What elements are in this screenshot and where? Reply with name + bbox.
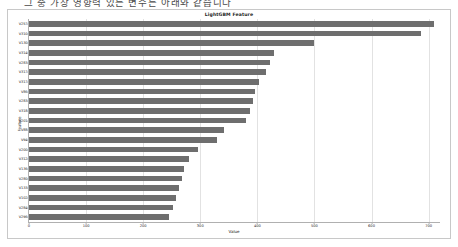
y-tick-mark	[27, 168, 29, 169]
page-caption-cutoff: 그 중 가장 영향력 있는 변수는 아래와 같습니다	[0, 0, 458, 7]
x-tick-label: 600	[368, 224, 375, 228]
y-tick-mark	[27, 91, 29, 92]
x-axis-label: Value	[28, 229, 440, 234]
x-tick-label: 200	[140, 224, 147, 228]
bar	[29, 89, 255, 94]
x-tick-label: 100	[83, 224, 90, 228]
bar	[29, 79, 259, 84]
bar	[29, 40, 314, 45]
y-tick-label: V317	[19, 80, 28, 84]
y-tick-mark	[27, 197, 29, 198]
bar	[29, 108, 250, 113]
bar	[29, 60, 270, 65]
x-tick-label: 300	[197, 224, 204, 228]
bar	[29, 156, 189, 161]
y-tick-mark	[27, 23, 29, 24]
bar	[29, 69, 266, 74]
y-tick-mark	[27, 149, 29, 150]
chart-figure: LightGBM Feature V257V310V130V314V283V31…	[8, 10, 450, 238]
bar	[29, 205, 173, 210]
y-tick-mark	[27, 81, 29, 82]
gridline	[314, 19, 315, 222]
y-tick-label: V130	[19, 41, 28, 45]
chart-card: LightGBM Feature V257V310V130V314V283V31…	[7, 9, 451, 239]
y-tick-mark	[27, 159, 29, 160]
bar	[29, 31, 421, 36]
y-tick-mark	[27, 217, 29, 218]
y-tick-label: V133	[19, 186, 28, 190]
bar	[29, 127, 224, 132]
y-tick-label: V312	[19, 157, 28, 161]
y-tick-label: V284	[19, 206, 28, 210]
plot-area: V257V310V130V314V283V317V317V86V283V318V…	[28, 19, 440, 223]
y-tick-mark	[27, 62, 29, 63]
y-tick-mark	[27, 120, 29, 121]
screenshot-root: 그 중 가장 영향력 있는 변수는 아래와 같습니다 LightGBM Feat…	[0, 0, 458, 247]
y-tick-mark	[27, 101, 29, 102]
y-tick-label: V317	[19, 70, 28, 74]
y-tick-label: V283	[19, 61, 28, 65]
y-tick-mark	[27, 130, 29, 131]
y-tick-mark	[27, 178, 29, 179]
page-caption-text: 그 중 가장 영향력 있는 변수는 아래와 같습니다	[24, 0, 232, 7]
y-tick-label: V136	[19, 167, 28, 171]
y-tick-label: V102	[19, 196, 28, 200]
y-tick-mark	[27, 72, 29, 73]
y-tick-mark	[27, 139, 29, 140]
x-tick-label: 700	[425, 224, 432, 228]
chart-title: LightGBM Feature	[8, 12, 450, 17]
y-tick-label: V310	[19, 32, 28, 36]
bar	[29, 21, 434, 26]
bar	[29, 50, 274, 55]
bar	[29, 137, 217, 142]
y-tick-label: V314	[19, 51, 28, 55]
x-tick-label: 400	[254, 224, 261, 228]
gridline	[429, 19, 430, 222]
y-tick-label: V296	[19, 215, 28, 219]
y-tick-mark	[27, 43, 29, 44]
y-tick-mark	[27, 33, 29, 34]
y-tick-label: V257	[19, 22, 28, 26]
bar	[29, 147, 198, 152]
bar	[29, 214, 169, 219]
gridline	[372, 19, 373, 222]
bar	[29, 98, 253, 103]
y-tick-mark	[27, 110, 29, 111]
x-tick-label: 0	[28, 224, 30, 228]
y-tick-mark	[27, 188, 29, 189]
y-axis-label: Feature	[17, 94, 22, 154]
y-tick-mark	[27, 207, 29, 208]
y-tick-label: V280	[19, 177, 28, 181]
bar	[29, 118, 246, 123]
x-tick-label: 500	[311, 224, 318, 228]
bar	[29, 195, 176, 200]
bar	[29, 166, 184, 171]
bar	[29, 176, 182, 181]
bar	[29, 185, 179, 190]
y-tick-mark	[27, 52, 29, 53]
